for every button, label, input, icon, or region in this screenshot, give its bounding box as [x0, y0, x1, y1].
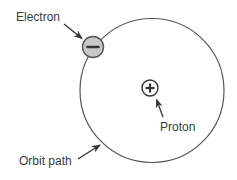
orbit-arrow-icon	[78, 145, 100, 159]
orbit-label-group: Orbit path	[19, 145, 100, 168]
proton	[142, 80, 158, 96]
proton-arrow-icon	[157, 100, 164, 118]
proton-label: Proton	[160, 120, 195, 134]
electron-label: Electron	[16, 10, 60, 24]
atom-diagram: Electron Proton Orbit path	[0, 0, 237, 180]
electron-label-group: Electron	[16, 10, 82, 39]
electron	[83, 37, 104, 58]
orbit-path-label: Orbit path	[19, 154, 72, 168]
proton-label-group: Proton	[157, 100, 196, 135]
electron-arrow-icon	[64, 24, 82, 39]
